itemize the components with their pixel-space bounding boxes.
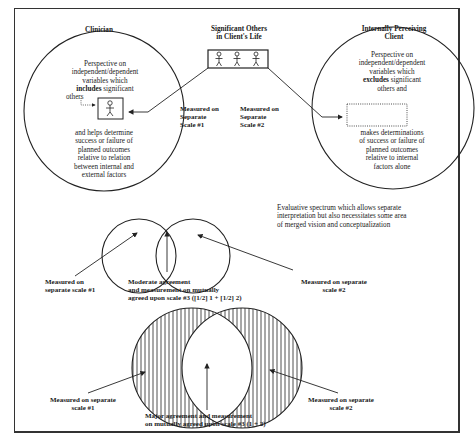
text-line: Measured on separate [296, 278, 372, 286]
text-line: relative to relation [64, 154, 144, 162]
client-description-after: makes determinations of success or failu… [350, 129, 434, 171]
client-description: Perspective on independent/dependent var… [350, 51, 434, 93]
text-line: Scale #2 [240, 121, 279, 129]
arrow-to-client [268, 68, 342, 117]
text-line: Measured on separate [44, 396, 122, 404]
scale1-label: Measured on Separate Scale #1 [180, 105, 219, 129]
text-line: scale #2 [296, 286, 372, 294]
text-line: Separate [180, 113, 219, 121]
text-line: Scale #1 [180, 121, 219, 129]
text-fragment: significant [102, 85, 134, 93]
person-icon [253, 52, 260, 66]
client-title: Internally Perceiving Client [356, 25, 432, 42]
person-icon [216, 52, 223, 66]
client-empty-dotted-box [347, 104, 407, 126]
text-line: independent/dependent [350, 59, 434, 67]
text-line: Client [356, 33, 432, 41]
text-line: Major agreement and measurement [145, 412, 266, 420]
text-line: Measured on separate [302, 396, 380, 404]
text-line: variables which [66, 77, 144, 85]
text-line: Perspective on [66, 60, 144, 68]
significant-others-title: Significant Others in Client's Life [208, 25, 270, 42]
text-line: makes determinations [350, 129, 434, 137]
person-icon [234, 52, 241, 66]
text-line: planned outcomes [64, 146, 144, 154]
excludes-keyword: excludes [363, 76, 389, 84]
clinician-description: Perspective on independent/dependent var… [66, 60, 144, 94]
text-line: Measured on [45, 278, 95, 286]
text-line: between internal and [64, 163, 144, 171]
text-line: excludes significant [350, 76, 434, 84]
text-line: separate scale #1 [45, 286, 95, 294]
bottom-right-label: Measured on separate scale #2 [302, 396, 380, 412]
text-line: Internally Perceiving [356, 25, 432, 33]
text-line: scale #1 [44, 404, 122, 412]
venn-major-hatched [132, 308, 302, 428]
person-icon [106, 101, 114, 116]
text-line: variables which [350, 68, 434, 76]
text-line: external factors [64, 171, 144, 179]
text-line: independent/dependent [66, 68, 144, 76]
text-line: Measured on [240, 105, 279, 113]
clinician-description-after: and helps determine success or failure o… [64, 129, 144, 179]
text-fragment: significant [389, 76, 421, 84]
text-line: Moderate agreement [128, 278, 242, 286]
text-line: Perspective on [350, 51, 434, 59]
text-line: factors alone [350, 163, 434, 171]
evaluative-spectrum-description: Evaluative spectrum which allows separat… [277, 204, 407, 229]
middle-right-label: Measured on separate scale #2 [296, 278, 372, 294]
text-line: Evaluative spectrum which allows separat… [277, 204, 407, 212]
bottom-left-label: Measured on separate scale #1 [44, 396, 122, 412]
text-line: in Client's Life [208, 33, 270, 41]
text-line: Separate [240, 113, 279, 121]
arrow-middle-right [198, 235, 293, 270]
text-line: of merged vision and conceptualization [277, 221, 407, 229]
bottom-center-label: Major agreement and measurement on mutua… [145, 412, 266, 428]
text-line: scale #2 [302, 404, 380, 412]
text-line: on mutually agreed upon scale #3 (1 + 2) [145, 420, 266, 428]
text-line: and measurement on mutually [128, 286, 242, 294]
text-line: success or failure of [64, 137, 144, 145]
clinician-others: others [66, 93, 84, 101]
text-line: relative to internal [350, 154, 434, 162]
text-line: agreed upon scale #3 ([1/2] 1 + [1/2] 2) [128, 294, 242, 302]
text-line: Measured on [180, 105, 219, 113]
scale2-label: Measured on Separate Scale #2 [240, 105, 279, 129]
text-line: and helps determine [64, 129, 144, 137]
text-line: of success or failure of [350, 137, 434, 145]
text-line: others and [350, 85, 434, 93]
clinician-title: Clinician [85, 26, 113, 34]
middle-center-label: Moderate agreement and measurement on mu… [128, 278, 242, 302]
middle-left-label: Measured on separate scale #1 [45, 278, 95, 294]
text-line: Significant Others [208, 25, 270, 33]
text-line: interpretation but also necessitates som… [277, 212, 407, 220]
text-line: planned outcomes [350, 146, 434, 154]
